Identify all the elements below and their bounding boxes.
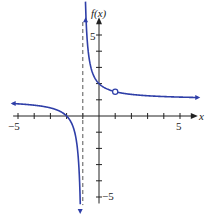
x-axis-label: x [198,110,204,122]
y-max-label: 5 [90,30,96,42]
curves [11,2,201,214]
open-point [113,89,118,94]
y-min-label: −5 [102,190,114,202]
arrow-right-icon [195,95,200,100]
x-max-label: 5 [176,120,182,132]
arrow-down-icon [78,209,83,214]
axes [13,17,198,205]
x-axis-arrow-icon [191,113,198,119]
x-min-label: −5 [8,120,20,132]
arrow-left-icon [11,101,16,106]
arrow-up-icon [83,17,88,22]
function-graph: f(x) x −5 5 5 −5 [0,0,213,216]
left-branch [12,104,80,205]
y-axis-label: f(x) [91,7,107,20]
